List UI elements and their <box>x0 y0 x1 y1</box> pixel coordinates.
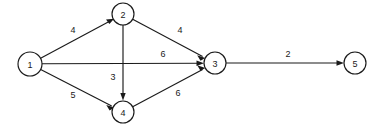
node-2[interactable]: 2 <box>112 3 134 25</box>
diagram-background <box>0 0 385 129</box>
node-5-label: 5 <box>352 59 357 69</box>
edge-1-to-3-line <box>42 63 201 64</box>
node-5[interactable]: 5 <box>344 52 366 74</box>
edge-label-2-to-4: 3 <box>110 72 115 82</box>
edge-label-4-to-3: 6 <box>175 88 180 98</box>
node-4-label: 4 <box>120 108 125 118</box>
node-3[interactable]: 3 <box>204 52 226 74</box>
edge-label-1-to-2: 4 <box>70 25 75 35</box>
node-2-label: 2 <box>120 10 125 20</box>
edge-label-1-to-3: 6 <box>160 49 165 59</box>
node-1-label: 1 <box>27 60 32 70</box>
node-4[interactable]: 4 <box>112 101 134 123</box>
node-3-label: 3 <box>212 59 217 69</box>
edge-label-3-to-5: 2 <box>285 49 290 59</box>
edge-label-1-to-4: 5 <box>70 90 75 100</box>
graph-diagram: 4 6 5 4 3 6 2 1 2 <box>0 0 385 129</box>
node-1[interactable]: 1 <box>18 52 42 76</box>
edge-label-2-to-3: 4 <box>177 25 182 35</box>
